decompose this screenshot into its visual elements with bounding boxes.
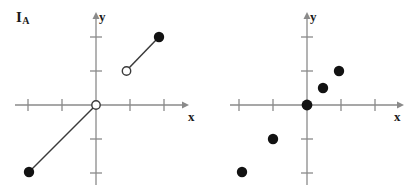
x-axis-arrow-b [397,102,404,109]
x-axis-label-b: x [394,110,401,123]
y-axis-label-a: y [99,10,106,23]
filled-point-2-2-a [154,32,164,42]
panel-label-a-base: I [16,9,22,25]
data-b [237,66,344,177]
axes-b [230,12,404,185]
filled-point-origin-b [302,100,313,111]
segment-upper-right-a [128,39,157,69]
filled-point-neg2-neg2-b [237,167,247,177]
filled-point-neg1-neg1-b [268,134,278,144]
filled-point-neg2-neg2-a [24,167,34,177]
open-point-origin-a [92,101,100,109]
plot-a-svg [0,0,204,196]
x-axis-arrow-a [182,102,189,109]
plot-b-svg [204,0,408,196]
panel-label-a: IA [16,10,30,26]
panel-i-b: IB x y [204,0,408,196]
segment-lower-left-a [31,107,94,170]
panel-i-a: IA x y [0,0,204,196]
x-axis-label-a: x [188,110,195,123]
open-point-1-1-a [122,67,130,75]
filled-point-1-1-b [334,66,344,76]
y-axis-label-b: y [310,10,317,23]
filled-point-half-half-b [318,83,328,93]
figure-container: IA x y [0,0,408,196]
panel-label-a-sub: A [22,15,29,26]
